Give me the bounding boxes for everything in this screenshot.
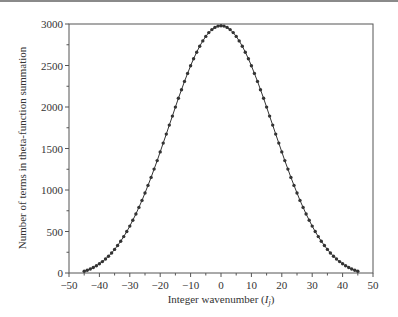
data-point [247,57,250,60]
data-point [304,212,307,215]
data-point [180,88,183,91]
data-point [314,230,317,233]
data-point [326,248,329,251]
data-point [259,88,262,91]
y-tick-label: 500 [47,226,64,238]
data-point [95,264,98,267]
data-point [323,244,326,247]
data-point [280,150,283,153]
x-tick-label: 30 [307,279,319,291]
data-point [332,255,335,258]
data-point [256,80,259,83]
x-tick-label: 0 [218,279,224,291]
y-tick-label: 3000 [41,18,64,30]
plot-frame [69,24,373,273]
data-point [262,97,265,100]
y-tick-label: 1000 [41,184,64,196]
data-point [204,35,207,38]
data-point [347,266,350,269]
data-point [253,72,256,75]
data-point [271,123,274,126]
data-series [83,24,360,273]
data-point [353,269,356,272]
x-tick-label: 50 [368,279,380,291]
data-point [192,57,195,60]
data-point [250,64,253,67]
data-point [338,260,341,263]
data-point [268,114,271,117]
x-tick-label: −30 [121,279,139,291]
data-point [207,31,210,34]
data-point [168,123,171,126]
x-axis-title: Integer wavenumber (Ij) [168,293,275,307]
data-point [241,45,244,48]
data-point [265,105,268,108]
data-point [92,266,95,269]
data-point [98,262,101,265]
y-tick-label: 2000 [41,101,64,113]
data-point [235,35,238,38]
data-point [195,51,198,54]
data-point [283,159,286,162]
data-point [152,167,155,170]
data-point [344,264,347,267]
data-point [228,28,231,31]
data-point [156,159,159,162]
data-point [131,219,134,222]
data-point [165,132,168,135]
data-point [174,105,177,108]
data-point [350,267,353,270]
data-point [216,24,219,27]
y-axis-title: Number of terms in theta-function summat… [16,46,28,249]
x-axis: −50−40−30−20−1001020304050 [60,273,379,291]
y-tick-label: 2500 [41,60,64,72]
data-point [119,240,122,243]
data-point [301,206,304,209]
x-tick-label: −50 [60,279,78,291]
data-point [183,80,186,83]
y-axis: 050010001500200025003000 [41,18,69,279]
x-tick-label: 20 [276,279,288,291]
data-point [210,28,213,31]
data-point [134,212,137,215]
data-point [286,167,289,170]
data-point [317,235,320,238]
data-point [219,24,222,27]
data-point [329,251,332,254]
x-tick-label: −10 [182,279,200,291]
data-point [289,176,292,179]
data-point [198,45,201,48]
data-point [128,224,131,227]
data-point [222,24,225,27]
x-tick-label: −40 [91,279,109,291]
data-point [143,191,146,194]
data-point [277,141,280,144]
data-point [292,184,295,187]
x-tick-label: −20 [152,279,170,291]
data-point [341,262,344,265]
data-point [232,31,235,34]
data-point [149,176,152,179]
data-point [201,39,204,42]
data-point [238,39,241,42]
data-point [110,251,113,254]
data-point [116,244,119,247]
series-line [84,26,358,272]
data-point [244,51,247,54]
line-chart: −50−40−30−20−1001020304050 0500100015002… [0,0,398,317]
data-point [137,206,140,209]
data-point [171,114,174,117]
data-point [189,64,192,67]
x-tick-label: 10 [246,279,258,291]
data-point [146,184,149,187]
plot-area [69,24,373,273]
data-point [311,224,314,227]
data-point [86,269,89,272]
data-point [125,230,128,233]
data-point [107,255,110,258]
data-point [113,248,116,251]
data-point [356,270,359,273]
data-point [186,72,189,75]
data-point [225,26,228,29]
data-point [101,260,104,263]
